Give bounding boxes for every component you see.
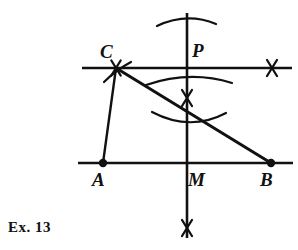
cross-marks (111, 60, 277, 236)
construction-arcs (104, 18, 232, 122)
point-label-A: A (92, 170, 105, 189)
exercise-caption: Ex. 13 (8, 219, 51, 236)
arc-mid-upper (146, 77, 232, 85)
point-label-B: B (260, 170, 273, 189)
point-marker-A (99, 159, 107, 167)
point-label-M: M (188, 170, 205, 189)
geometry-figure: C P A M B Ex. 13 (0, 0, 298, 250)
point-marker-B (267, 159, 275, 167)
segment-C-B (116, 68, 271, 163)
point-label-P: P (192, 41, 204, 60)
point-label-C: C (100, 42, 113, 61)
geometry-canvas (0, 0, 298, 250)
